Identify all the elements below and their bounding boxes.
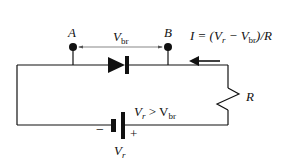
node-b-dot <box>164 43 172 51</box>
node-a-label: A <box>67 25 76 40</box>
vbr-label: Vbr <box>113 29 128 46</box>
battery-voltage-label: Vr <box>114 143 126 160</box>
circuit-diagram: A B Vbr I = (Vr − Vbr)/R R Vr > Vbr − + … <box>0 0 290 165</box>
battery-minus-label: − <box>96 122 104 137</box>
resistor-label: R <box>245 89 254 104</box>
diode-icon <box>108 56 129 74</box>
node-b-label: B <box>164 25 172 40</box>
battery-condition-label: Vr > Vbr <box>134 104 176 121</box>
resistor <box>217 88 239 110</box>
battery-plus-label: + <box>130 126 137 141</box>
node-a-dot <box>69 43 77 51</box>
current-equation-label: I = (Vr − Vbr)/R <box>189 28 272 45</box>
battery-icon <box>111 112 125 139</box>
